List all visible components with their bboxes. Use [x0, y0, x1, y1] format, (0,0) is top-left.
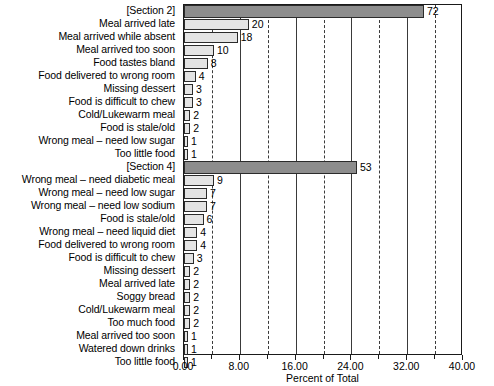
category-label: Wrong meal – need low sugar	[0, 186, 179, 199]
bar-value-label: 2	[190, 291, 199, 304]
bar-value-label: 9	[214, 174, 223, 187]
category-bar	[184, 32, 238, 43]
bar-row: 10	[184, 44, 461, 57]
bar-series: 722018108433221153977644322222111	[184, 5, 461, 369]
bar-row: 2	[184, 317, 461, 330]
section-label: [Section 4]	[0, 160, 179, 173]
category-label: Too much food	[0, 316, 179, 329]
category-bar	[184, 84, 193, 95]
x-axis-title: Percent of Total	[183, 372, 462, 384]
bar-value-label: 2	[190, 109, 199, 122]
bar-value-label: 7	[207, 187, 216, 200]
bar-row: 3	[184, 96, 461, 109]
bar-value-label: 2	[190, 304, 199, 317]
bar-value-label: 4	[197, 226, 206, 239]
bar-value-label: 18	[238, 31, 253, 44]
category-bar	[184, 214, 204, 225]
bar-value-label: 3	[193, 83, 202, 96]
category-label: Meal arrived while absent	[0, 30, 179, 43]
bar-row: 2	[184, 278, 461, 291]
category-bar	[184, 97, 193, 108]
bar-value-label: 6	[204, 213, 213, 226]
bar-value-label: 2	[190, 122, 199, 135]
bar-value-label: 2	[190, 278, 199, 291]
category-label: Meal arrived late	[0, 277, 179, 290]
x-tick-minor	[434, 355, 435, 359]
category-label: Food delivered to wrong room	[0, 69, 179, 82]
bar-row: 2	[184, 109, 461, 122]
bar-row: 53	[184, 161, 461, 174]
section-label: [Section 2]	[0, 4, 179, 17]
plot-area: 722018108433221153977644322222111	[183, 4, 462, 355]
bar-row: 7	[184, 200, 461, 213]
category-bar	[184, 19, 249, 30]
bar-row: 2	[184, 304, 461, 317]
category-label: Wrong meal – need liquid diet	[0, 225, 179, 238]
category-label: Wrong meal – need low sodium	[0, 199, 179, 212]
bar-row: 9	[184, 174, 461, 187]
x-tick-minor	[211, 355, 212, 359]
x-tick-minor	[323, 355, 324, 359]
category-bar	[184, 175, 214, 186]
category-label: Watered down drinks	[0, 342, 179, 355]
category-label-column: [Section 2]Meal arrived lateMeal arrived…	[0, 4, 179, 368]
category-label: Meal arrived late	[0, 17, 179, 30]
category-bar	[184, 188, 207, 199]
bar-value-label: 1	[188, 330, 197, 343]
category-label: Food is difficult to chew	[0, 95, 179, 108]
bar-row: 2	[184, 265, 461, 278]
x-tick-minor	[378, 355, 379, 359]
bar-value-label: 1	[188, 135, 197, 148]
bar-value-label: 53	[357, 161, 372, 174]
category-label: Meal arrived too soon	[0, 43, 179, 56]
bar-value-label: 20	[249, 18, 264, 31]
bar-value-label: 4	[196, 70, 205, 83]
bar-value-label: 2	[190, 265, 199, 278]
category-label: Cold/Lukewarm meal	[0, 108, 179, 121]
category-bar	[184, 253, 194, 264]
category-label: Too little food	[0, 355, 179, 368]
category-bar	[184, 45, 214, 56]
category-label: Food is difficult to chew	[0, 251, 179, 264]
bar-value-label: 10	[214, 44, 229, 57]
category-label: Missing dessert	[0, 264, 179, 277]
category-bar	[184, 58, 208, 69]
bar-row: 1	[184, 135, 461, 148]
section-bar	[184, 5, 424, 18]
bar-chart: [Section 2]Meal arrived lateMeal arrived…	[0, 0, 494, 386]
category-bar	[184, 240, 197, 251]
bar-row: 7	[184, 187, 461, 200]
bar-row: 20	[184, 18, 461, 31]
bar-value-label: 3	[194, 252, 203, 265]
bar-row: 4	[184, 70, 461, 83]
category-label: Soggy bread	[0, 290, 179, 303]
category-label: Food is stale/old	[0, 121, 179, 134]
bar-row: 3	[184, 252, 461, 265]
bar-row: 3	[184, 83, 461, 96]
bar-row: 1	[184, 148, 461, 161]
section-bar	[184, 161, 357, 174]
x-tick-minor	[267, 355, 268, 359]
bar-row: 6	[184, 213, 461, 226]
category-label: Missing dessert	[0, 82, 179, 95]
bar-value-label: 3	[193, 96, 202, 109]
category-label: Food delivered to wrong room	[0, 238, 179, 251]
bar-row: 2	[184, 291, 461, 304]
bar-value-label: 4	[197, 239, 206, 252]
category-bar	[184, 201, 207, 212]
bar-row: 18	[184, 31, 461, 44]
bar-value-label: 72	[424, 5, 439, 18]
bar-value-label: 7	[207, 200, 216, 213]
category-label: Wrong meal – need low sugar	[0, 134, 179, 147]
bar-row: 72	[184, 5, 461, 18]
bar-value-label: 2	[190, 317, 199, 330]
category-label: Food is stale/old	[0, 212, 179, 225]
bar-row: 2	[184, 122, 461, 135]
bar-row: 4	[184, 239, 461, 252]
bar-row: 1	[184, 330, 461, 343]
category-label: Cold/Lukewarm meal	[0, 303, 179, 316]
category-label: Meal arrived too soon	[0, 329, 179, 342]
category-label: Wrong meal – need diabetic meal	[0, 173, 179, 186]
category-bar	[184, 71, 196, 82]
bar-row: 8	[184, 57, 461, 70]
